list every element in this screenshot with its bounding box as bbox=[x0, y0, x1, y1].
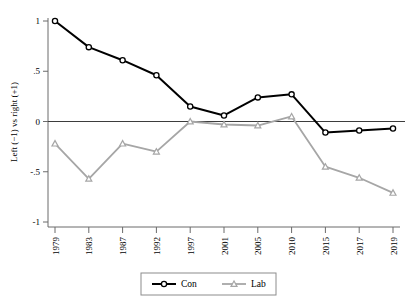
data-point-marker bbox=[221, 113, 226, 118]
x-axis-tick-label: 2001 bbox=[220, 237, 230, 255]
legend-swatch-marker bbox=[161, 281, 166, 286]
x-axis-tick-label: 1997 bbox=[186, 237, 196, 256]
x-axis-tick-label: 2005 bbox=[253, 237, 263, 256]
x-axis-tick-label: 2010 bbox=[287, 237, 297, 256]
chart-figure: 1.50-.5-1 197919831987199219972001200520… bbox=[0, 0, 417, 306]
x-axis-tick-label: 1979 bbox=[51, 237, 61, 256]
y-axis-tick-label: 0 bbox=[36, 117, 41, 127]
chart-legend: ConLab bbox=[141, 273, 276, 295]
plot-background bbox=[0, 0, 417, 306]
data-point-marker bbox=[390, 126, 395, 131]
legend-item-label: Con bbox=[181, 279, 197, 289]
data-point-marker bbox=[120, 58, 125, 63]
x-axis-tick-label: 1983 bbox=[84, 237, 94, 256]
data-point-marker bbox=[255, 95, 260, 100]
x-axis-tick-label: 2019 bbox=[389, 237, 399, 256]
y-axis-tick-label: .5 bbox=[33, 66, 40, 76]
data-point-marker bbox=[86, 45, 91, 50]
y-axis-tick-label: -1 bbox=[33, 217, 41, 227]
x-axis-tick-label: 2017 bbox=[355, 237, 365, 256]
x-axis-tick-label: 2015 bbox=[321, 237, 331, 256]
y-axis-title: Left (−1) vs right (+1) bbox=[9, 82, 19, 162]
line-chart: 1.50-.5-1 197919831987199219972001200520… bbox=[0, 0, 417, 306]
x-axis-tick-label: 1992 bbox=[152, 237, 162, 255]
y-axis-tick-label: 1 bbox=[36, 16, 41, 26]
data-point-marker bbox=[188, 104, 193, 109]
y-axis-title-text: Left (−1) vs right (+1) bbox=[9, 82, 19, 162]
data-point-marker bbox=[154, 73, 159, 78]
data-point-marker bbox=[289, 92, 294, 97]
data-point-marker bbox=[357, 128, 362, 133]
x-axis-tick-label: 1987 bbox=[118, 237, 128, 256]
legend-item-label: Lab bbox=[251, 279, 266, 289]
data-point-marker bbox=[323, 130, 328, 135]
data-point-marker bbox=[52, 18, 57, 23]
y-axis-tick-label: -.5 bbox=[30, 167, 40, 177]
